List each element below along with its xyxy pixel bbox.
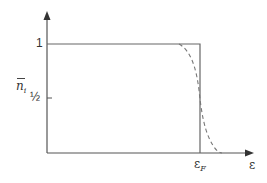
y-axis-label-base: n xyxy=(16,79,24,93)
y-axis-label: ni xyxy=(16,80,26,95)
y-tick-label-one: 1 xyxy=(36,37,43,49)
y-axis-arrow-icon xyxy=(44,11,51,20)
x-axis-label: ε xyxy=(249,159,255,171)
y-tick-label-half: ½ xyxy=(30,91,40,103)
overbar xyxy=(17,78,25,79)
fermi-dirac-plot xyxy=(0,0,267,183)
step-function-line xyxy=(47,44,200,153)
y-axis-label-sub: i xyxy=(24,86,27,95)
x-tick-fermi-sub: F xyxy=(200,164,206,173)
x-tick-label-fermi: εF xyxy=(194,158,206,173)
x-axis-arrow-icon xyxy=(245,150,254,157)
